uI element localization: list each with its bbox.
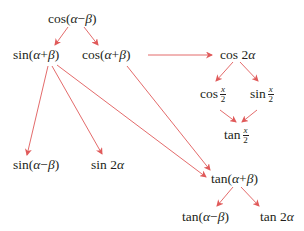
edge-cos-double-to-sin-half: [240, 62, 258, 81]
edge-cos-minus-to-cos-plus: [84, 27, 98, 45]
node-tan-half-x: tanx2: [224, 126, 249, 145]
coefficient: 2: [280, 209, 287, 224]
fraction: x2: [268, 85, 274, 104]
var-alpha: α: [71, 11, 78, 26]
fn-label: tan: [260, 209, 277, 224]
paren-close: ): [55, 47, 60, 62]
edge-sin-plus-to-sin-minus: [27, 66, 48, 155]
var-alpha: α: [287, 209, 294, 224]
operator: +: [239, 171, 247, 186]
node-cos-2alpha: cos 2α: [220, 48, 255, 62]
edge-tan-plus-to-tan-double: [241, 187, 259, 206]
edge-tan-plus-to-tan-minus: [217, 187, 233, 206]
fn-label: tan: [211, 171, 228, 186]
node-tan-alpha-plus-beta: tan(α+β): [211, 172, 258, 186]
var-alpha: α: [117, 157, 124, 172]
edge-sin-half-to-tan-half: [242, 110, 257, 122]
node-cos-alpha-plus-beta: cos(α+β): [82, 48, 130, 62]
fn-label: tan: [224, 127, 241, 142]
var-beta: β: [48, 157, 55, 172]
edge-cos-double-to-cos-half: [216, 62, 233, 81]
edge-cos-half-to-tan-half: [220, 110, 236, 122]
fn-label: sin: [250, 86, 266, 101]
operator: −: [210, 209, 218, 224]
node-cos-half-x: cosx2: [200, 85, 226, 104]
node-tan-2alpha: tan 2α: [260, 210, 294, 224]
edge-sin-plus-to-tan-plus: [57, 65, 206, 177]
fn-label: cos: [48, 11, 66, 26]
node-sin-alpha-minus-beta: sin(α−β): [13, 158, 59, 172]
operator: −: [40, 157, 48, 172]
edge-cos-minus-to-sin-plus: [55, 27, 68, 45]
fn-label: cos: [82, 47, 100, 62]
var-alpha: α: [248, 47, 255, 62]
node-sin-2alpha: sin 2α: [91, 158, 124, 172]
coefficient: 2: [110, 157, 117, 172]
fraction: x2: [220, 85, 226, 104]
node-sin-alpha-plus-beta: sin(α+β): [13, 48, 59, 62]
arrows-layer: [0, 0, 304, 231]
fn-label: sin: [91, 157, 107, 172]
fn-label: cos: [200, 86, 218, 101]
paren-close: ): [126, 47, 131, 62]
paren-close: ): [92, 11, 97, 26]
fn-label: sin: [13, 47, 29, 62]
fn-label: sin: [13, 157, 29, 172]
fn-label: tan: [182, 209, 199, 224]
operator: +: [40, 47, 48, 62]
edge-sin-plus-to-sin-double: [52, 66, 102, 154]
denominator: 2: [243, 136, 249, 145]
fn-label: cos: [220, 47, 238, 62]
denominator: 2: [268, 95, 274, 104]
paren-close: ): [224, 209, 229, 224]
node-cos-alpha-minus-beta: cos(α−β): [48, 12, 96, 26]
denominator: 2: [220, 95, 226, 104]
node-tan-alpha-minus-beta: tan(α−β): [182, 210, 229, 224]
var-beta: β: [85, 11, 92, 26]
fraction: x2: [243, 126, 249, 145]
var-alpha: α: [105, 47, 112, 62]
paren-close: ): [55, 157, 60, 172]
var-beta: β: [119, 47, 126, 62]
edge-cos-plus-to-tan-plus: [127, 66, 210, 170]
node-sin-half-x: sinx2: [250, 85, 274, 104]
paren-close: ): [253, 171, 258, 186]
var-beta: β: [48, 47, 55, 62]
